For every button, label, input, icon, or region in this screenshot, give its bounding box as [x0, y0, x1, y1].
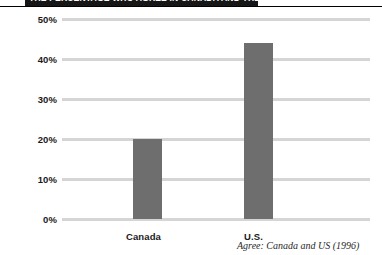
y-axis-label-10: 10% — [0, 174, 57, 185]
bar-us[interactable] — [244, 43, 273, 219]
gridline-40 — [62, 58, 370, 61]
gridline-30 — [62, 98, 370, 101]
y-axis-label-30: 30% — [0, 94, 57, 105]
chart-footnote: Agree: Canada and US (1996) — [237, 240, 359, 251]
gridline-20 — [62, 138, 370, 141]
chart-page: THE PERCENTAGE WHO AGREE IN CANADA AND T… — [0, 0, 382, 255]
y-axis-label-0: 0% — [0, 214, 57, 225]
y-axis-label-20: 20% — [0, 134, 57, 145]
bar-canada[interactable] — [133, 139, 162, 219]
x-axis-label-canada: Canada — [126, 231, 161, 242]
gridline-10 — [62, 178, 370, 181]
y-axis-label-40: 40% — [0, 54, 57, 65]
gridline-50 — [62, 18, 370, 21]
plot-area: 50% 40% 30% 20% 10% 0% Canada U.S. Agree… — [0, 0, 382, 255]
gridline-0 — [62, 218, 370, 221]
y-axis-label-50: 50% — [0, 14, 57, 25]
